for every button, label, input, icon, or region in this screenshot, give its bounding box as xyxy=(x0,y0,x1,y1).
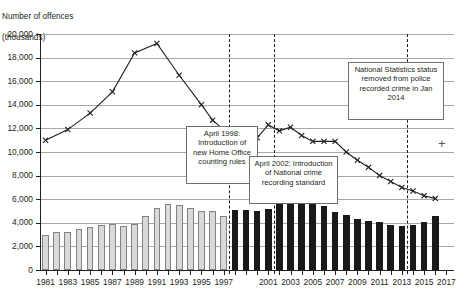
x-axis-tick xyxy=(424,270,425,275)
x-axis-tick xyxy=(402,270,403,275)
x-axis-tick xyxy=(235,270,236,275)
x-axis-tick xyxy=(68,270,69,275)
x-axis-tick xyxy=(346,270,347,275)
x-axis-tick xyxy=(246,270,247,275)
x-axis-tick xyxy=(101,270,102,275)
x-axis-tick xyxy=(146,270,147,275)
plus-marker: + xyxy=(438,136,446,151)
line-marker-1985 xyxy=(88,110,93,115)
x-axis-tick xyxy=(435,270,436,275)
line-marker-1991 xyxy=(154,41,159,46)
x-axis-tick xyxy=(168,270,169,275)
line-marker-2010 xyxy=(366,165,371,170)
x-axis-tick xyxy=(335,270,336,275)
x-axis-tick xyxy=(324,270,325,275)
x-axis-tick xyxy=(291,270,292,275)
x-axis-tick xyxy=(313,270,314,275)
x-axis-tick xyxy=(190,270,191,275)
line-marker-2009 xyxy=(355,158,360,163)
line-marker-2001 xyxy=(266,122,271,127)
x-axis-tick xyxy=(46,270,47,275)
x-axis-tick xyxy=(368,270,369,275)
x-axis-tick xyxy=(268,270,269,275)
x-axis-tick xyxy=(302,270,303,275)
line-marker-1996 xyxy=(210,118,215,123)
line-marker-2004 xyxy=(299,133,304,138)
x-axis-tick xyxy=(112,270,113,275)
line-marker-1995 xyxy=(199,102,204,107)
x-axis-tick-label-2017: 2017 xyxy=(432,277,458,287)
line-marker-2014 xyxy=(410,188,415,193)
line-marker-1993 xyxy=(177,73,182,78)
x-axis-tick xyxy=(79,270,80,275)
x-axis-tick-label-1997: 1997 xyxy=(210,277,238,287)
chart-container: Number of offences (thousands) 02,0004,0… xyxy=(0,0,458,296)
line-marker-2012 xyxy=(388,179,393,184)
x-axis-tick xyxy=(157,270,158,275)
x-axis-tick xyxy=(57,270,58,275)
x-axis-tick xyxy=(201,270,202,275)
line-marker-2011 xyxy=(377,173,382,178)
x-axis-tick xyxy=(135,270,136,275)
x-axis-tick xyxy=(179,270,180,275)
line-marker-1989 xyxy=(132,50,137,55)
x-axis-tick xyxy=(90,270,91,275)
annotation-vline-2002 xyxy=(274,34,275,274)
annotation-note-1998: April 1998: Introduction of new Home Off… xyxy=(186,126,258,184)
x-axis-tick xyxy=(380,270,381,275)
x-axis-tick xyxy=(357,270,358,275)
x-axis-tick xyxy=(124,270,125,275)
x-axis-tick xyxy=(279,270,280,275)
x-axis-tick xyxy=(213,270,214,275)
x-axis-tick xyxy=(224,270,225,275)
line-marker-2008 xyxy=(344,149,349,154)
line-marker-1981 xyxy=(43,138,48,143)
annotation-note-2014: National Statistics status removed from … xyxy=(348,62,444,120)
annotation-note-2002: April 2002: Introduction of National cri… xyxy=(249,156,338,204)
line-marker-1983 xyxy=(65,127,70,132)
x-axis-tick xyxy=(413,270,414,275)
x-axis-tick xyxy=(446,270,447,275)
x-axis-tick xyxy=(391,270,392,275)
x-axis-tick xyxy=(257,270,258,275)
line-marker-1987 xyxy=(110,89,115,94)
